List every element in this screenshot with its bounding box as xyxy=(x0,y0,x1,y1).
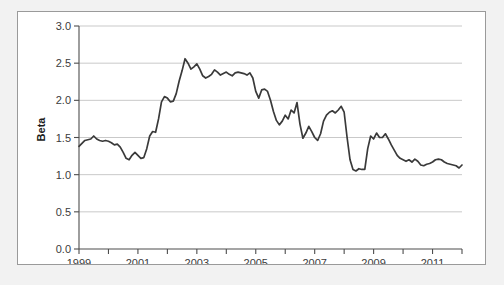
x-tick-label: 2003 xyxy=(185,257,209,264)
chart-panel: 0.00.51.01.52.02.53.0 199920012003200520… xyxy=(17,11,486,265)
y-axis-ticks-group: 0.00.51.01.52.02.53.0 xyxy=(56,20,79,255)
x-tick-label: 2007 xyxy=(302,257,326,264)
x-tick-label: 2001 xyxy=(126,257,150,264)
x-tick-label: 2009 xyxy=(361,257,385,264)
y-tick-label: 3.0 xyxy=(56,20,71,32)
x-tick-label: 1999 xyxy=(67,257,91,264)
x-tick-label: 2011 xyxy=(421,257,445,264)
beta-series-line xyxy=(79,59,462,171)
y-tick-label: 0.5 xyxy=(56,206,71,218)
x-tick-label: 2005 xyxy=(244,257,268,264)
beta-line-chart: 0.00.51.01.52.02.53.0 199920012003200520… xyxy=(18,12,485,264)
y-tick-label: 1.5 xyxy=(56,132,71,144)
x-axis-ticks-group: 1999200120032005200720092011 xyxy=(67,249,462,264)
y-tick-label: 2.5 xyxy=(56,57,71,69)
gridlines-group xyxy=(79,26,462,212)
y-tick-label: 1.0 xyxy=(56,169,71,181)
y-tick-label: 2.0 xyxy=(56,94,71,106)
y-tick-label: 0.0 xyxy=(56,243,71,255)
y-axis-title: Beta xyxy=(35,117,47,142)
